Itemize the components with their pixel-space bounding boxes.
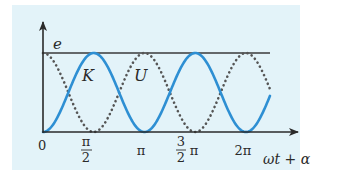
svg-text:3: 3	[177, 134, 185, 149]
curve-label-u: U	[134, 66, 148, 85]
svg-text:π: π	[190, 143, 199, 158]
tick-label-2pi: 2π	[235, 143, 252, 158]
svg-text:2: 2	[177, 150, 185, 165]
energy-chart: e K U 0 π 2 π 3 2 π 2π ωt + α	[0, 0, 347, 176]
x-axis-label: ωt + α	[263, 151, 311, 167]
tick-label-half-pi: π 2	[81, 134, 92, 165]
tick-label-pi: π	[137, 143, 146, 158]
y-axis-label: e	[53, 35, 62, 53]
tick-label-three-half-pi: 3 2 π	[176, 134, 199, 165]
svg-text:2: 2	[82, 150, 90, 165]
svg-text:π: π	[82, 134, 91, 149]
tick-label-0: 0	[38, 138, 46, 153]
curve-label-k: K	[81, 66, 95, 85]
